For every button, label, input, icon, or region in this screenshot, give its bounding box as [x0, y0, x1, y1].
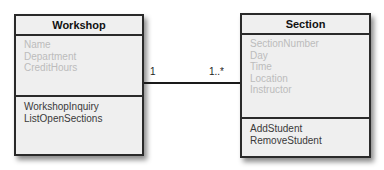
- uml-diagram: Workshop Name Department CreditHours Wor…: [0, 0, 384, 170]
- class-title: Workshop: [16, 16, 142, 36]
- attribute: Instructor: [250, 84, 369, 96]
- method: WorkshopInquiry: [24, 101, 142, 113]
- method: RemoveStudent: [250, 135, 369, 147]
- class-section: Section SectionNumber Day Time Location …: [240, 13, 371, 158]
- attribute: Day: [250, 50, 369, 62]
- multiplicity-section: 1..*: [209, 66, 224, 77]
- attribute: SectionNumber: [250, 38, 369, 50]
- attribute: Department: [24, 51, 142, 63]
- multiplicity-workshop: 1: [150, 66, 156, 77]
- attribute: Time: [250, 61, 369, 73]
- compartment-divider: [16, 95, 142, 97]
- attribute-list: Name Department CreditHours: [16, 39, 142, 74]
- association-line: [144, 82, 240, 84]
- method-list: WorkshopInquiry ListOpenSections: [16, 101, 142, 124]
- attribute: Location: [250, 73, 369, 85]
- method-list: AddStudent RemoveStudent: [242, 123, 369, 146]
- attribute: CreditHours: [24, 62, 142, 74]
- class-title: Section: [242, 15, 369, 35]
- method: AddStudent: [250, 123, 369, 135]
- attribute-list: SectionNumber Day Time Location Instruct…: [242, 38, 369, 96]
- compartment-divider: [242, 117, 369, 119]
- method: ListOpenSections: [24, 113, 142, 125]
- attribute: Name: [24, 39, 142, 51]
- class-workshop: Workshop Name Department CreditHours Wor…: [14, 14, 144, 156]
